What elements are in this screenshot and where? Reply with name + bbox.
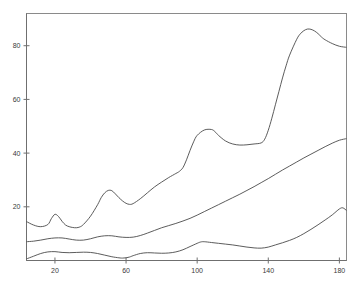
y-tick-label: 20: [13, 203, 21, 210]
data-curve-middle: [27, 139, 347, 242]
y-tick-label: 40: [13, 150, 21, 157]
x-tick-label: 180: [334, 267, 346, 274]
y-tick-label: 80: [13, 42, 21, 49]
data-curves: [27, 29, 347, 259]
x-tick-label: 140: [262, 267, 274, 274]
x-tick-label: 60: [122, 267, 130, 274]
y-tick-label: 60: [13, 96, 21, 103]
chart-container: 20406080 2060100140180: [0, 0, 356, 281]
line-chart: 20406080 2060100140180: [0, 0, 356, 281]
x-axis: 2060100140180: [27, 258, 347, 274]
data-curve-lower: [27, 208, 347, 259]
y-axis: 20406080: [13, 14, 30, 261]
plot-frame: [27, 14, 347, 261]
x-tick-label: 20: [51, 267, 59, 274]
data-curve-upper: [27, 29, 347, 228]
x-tick-label: 100: [191, 267, 203, 274]
